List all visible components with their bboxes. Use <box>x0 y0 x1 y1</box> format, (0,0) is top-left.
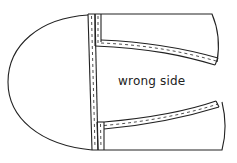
bottom-curved-strip-upper <box>104 101 216 122</box>
top-edge <box>88 14 218 62</box>
left-dome-outline <box>8 15 92 150</box>
bottom-curved-strip-lower <box>104 107 219 129</box>
top-curved-strip-upper <box>101 40 218 58</box>
top-curved-strip-lower <box>95 46 215 65</box>
bottom-edge <box>92 102 225 150</box>
vertical-seam-outer <box>88 14 92 150</box>
wrong-side-label: wrong side <box>118 74 185 88</box>
